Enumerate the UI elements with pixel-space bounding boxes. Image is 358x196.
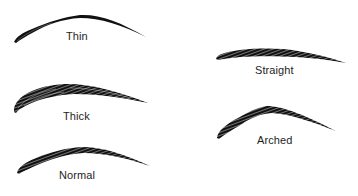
- eyebrow-straight-illustration: [216, 49, 346, 63]
- eyebrow-thick-illustration: [14, 84, 148, 113]
- label-thick: Thick: [63, 110, 90, 122]
- label-straight: Straight: [255, 64, 294, 76]
- label-normal: Normal: [59, 169, 95, 181]
- label-thin: Thin: [66, 30, 88, 42]
- label-arched: Arched: [257, 134, 292, 146]
- eyebrow-diagram: [0, 0, 358, 196]
